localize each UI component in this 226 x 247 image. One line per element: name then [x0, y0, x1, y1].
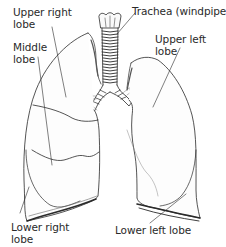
label-lower-left-lobe: Lower left lobe [115, 224, 191, 236]
lungs-diagram: Upper right lobe Middle lobe Trachea (wi… [0, 0, 226, 247]
label-trachea: Trachea (windpipe) [132, 5, 226, 17]
label-middle-lobe: Middle lobe [13, 41, 47, 65]
label-lower-right-lobe: Lower right lobe [11, 221, 69, 245]
label-upper-left-lobe: Upper left lobe [155, 33, 206, 57]
label-upper-right-lobe: Upper right lobe [13, 6, 72, 30]
